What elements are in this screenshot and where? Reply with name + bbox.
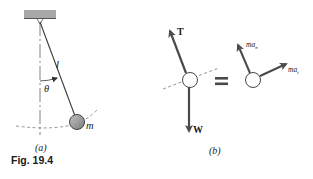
pendulum-bob: [70, 115, 85, 130]
tension-label: T: [177, 26, 184, 37]
tangential-accel-label: mat: [288, 65, 299, 75]
panel-a: l θ m (a): [16, 10, 97, 154]
panel-b: T W man mat (b): [163, 26, 299, 157]
length-label: l: [56, 58, 59, 70]
pendulum-figure: l θ m (a) T W man mat (b): [0, 0, 313, 179]
panel-b-sublabel: (b): [209, 145, 221, 157]
mass-label: m: [86, 120, 94, 131]
panel-a-sublabel: (a): [35, 142, 47, 154]
tangential-accel-arrow: [260, 64, 286, 76]
ceiling-support: [24, 10, 56, 18]
swing-arc: [16, 110, 97, 128]
angle-arc: [40, 78, 57, 81]
normal-accel-label: man: [246, 40, 258, 50]
kinetic-body-circle: [246, 73, 261, 88]
equals-sign: [215, 77, 228, 85]
figure-caption: Fig. 19.4: [11, 154, 53, 166]
tension-arrow: [170, 31, 186, 73]
free-body-circle: [183, 73, 198, 88]
weight-label: W: [193, 124, 203, 135]
angle-label: θ: [44, 83, 49, 94]
normal-accel-arrow: [238, 45, 250, 73]
